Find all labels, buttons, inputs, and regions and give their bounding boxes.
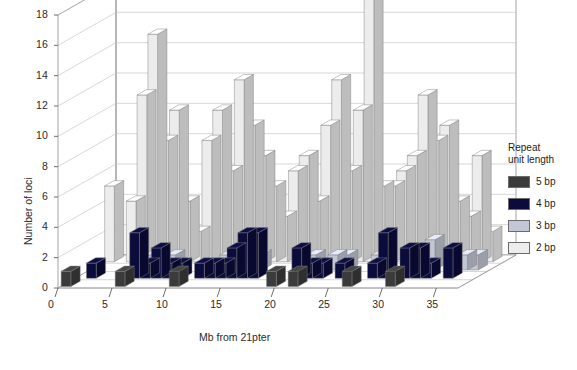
legend-swatch-3-bp (508, 220, 530, 232)
bar-chart-3d (0, 0, 577, 370)
x-tick-label: 5 (102, 298, 108, 310)
y-tick-label: 8 (22, 160, 48, 172)
legend-item[interactable]: 5 bp (508, 173, 576, 190)
x-axis-label: Mb from 21pter (199, 331, 270, 343)
legend-swatch-2-bp (508, 242, 530, 254)
legend-items: 5 bp4 bp3 bp2 bp (508, 173, 576, 256)
legend: Repeat unit length 5 bp4 bp3 bp2 bp (508, 142, 576, 261)
legend-swatch-4-bp (508, 198, 530, 210)
y-tick-label: 2 (22, 251, 48, 263)
x-tick-label: 35 (426, 298, 438, 310)
legend-swatch-5-bp (508, 176, 530, 188)
legend-item-label: 4 bp (536, 198, 555, 209)
x-tick-label: 0 (48, 298, 54, 310)
legend-title-line1: Repeat (508, 142, 576, 154)
x-tick-label: 20 (264, 298, 276, 310)
x-tick-label: 15 (210, 298, 222, 310)
legend-item[interactable]: 3 bp (508, 217, 576, 234)
y-tick-label: 10 (22, 129, 48, 141)
x-tick-label: 25 (318, 298, 330, 310)
legend-title-line2: unit length (508, 154, 576, 166)
y-tick-label: 0 (22, 281, 48, 293)
bar (443, 243, 462, 279)
legend-item[interactable]: 4 bp (508, 195, 576, 212)
legend-title: Repeat unit length (508, 142, 576, 166)
bar (105, 181, 124, 262)
y-tick-label: 12 (22, 99, 48, 111)
y-tick-label: 14 (22, 69, 48, 81)
legend-item-label: 5 bp (536, 176, 555, 187)
x-tick-label: 30 (372, 298, 384, 310)
legend-item-label: 2 bp (536, 242, 555, 253)
legend-item[interactable]: 2 bp (508, 239, 576, 256)
y-axis-label: Number of loci (22, 177, 34, 245)
legend-item-label: 3 bp (536, 220, 555, 231)
x-tick-label: 10 (156, 298, 168, 310)
y-tick-label: 16 (22, 38, 48, 50)
chart-figure: 024681012141618 Number of loci 051015202… (0, 0, 577, 370)
y-tick-label: 18 (22, 8, 48, 20)
